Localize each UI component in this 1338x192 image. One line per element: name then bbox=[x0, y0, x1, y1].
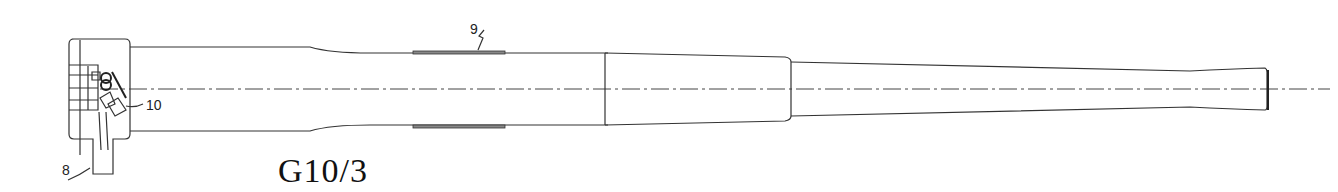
label-8: 8 bbox=[62, 162, 90, 180]
svg-text:9: 9 bbox=[470, 21, 478, 37]
technical-drawing: 9 10 8 bbox=[0, 0, 1338, 192]
label-9: 9 bbox=[470, 21, 484, 50]
svg-text:8: 8 bbox=[62, 162, 70, 178]
figure-caption: G10/3 bbox=[278, 152, 368, 190]
svg-text:10: 10 bbox=[146, 97, 162, 113]
label-10: 10 bbox=[126, 97, 162, 113]
breech-block bbox=[69, 39, 130, 174]
